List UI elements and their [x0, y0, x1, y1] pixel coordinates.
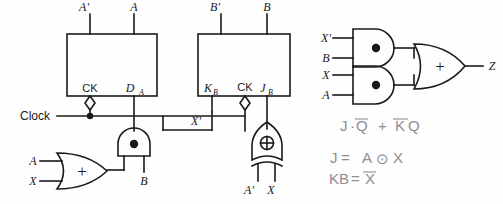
note1-dot: ·: [350, 117, 355, 134]
or-gate-z-symbol: +: [435, 57, 445, 76]
note2-j: J: [330, 149, 338, 166]
label-or-input-x: X: [28, 174, 37, 188]
and-gate-da-dot: [130, 140, 138, 148]
or-gate-ax-symbol: +: [77, 162, 87, 181]
label-kb: K: [203, 81, 213, 95]
note2-x: X: [393, 149, 403, 166]
label-ck-b: CK: [237, 81, 253, 93]
label-and-input-b: B: [140, 174, 148, 188]
label-a: A: [129, 0, 138, 14]
note2-xnor: ⊙: [376, 150, 389, 167]
and-gate-top-dot: [372, 44, 380, 52]
clock-junction-dot: [87, 113, 93, 119]
label-da-sub: A: [138, 88, 144, 97]
note2-eq: =: [341, 149, 350, 166]
note1-k: K: [395, 117, 405, 134]
note1-plus: +: [378, 117, 387, 134]
label-kb-input-xprime: X': [190, 114, 201, 128]
note2-a: A: [362, 149, 372, 166]
label-da: D: [125, 81, 135, 95]
note3-kb: KB: [329, 170, 349, 187]
label-out-and-bottom-x: X: [321, 68, 330, 82]
label-b: B: [263, 0, 271, 14]
label-clock: Clock: [20, 109, 51, 123]
label-xor-input-aprime: A': [243, 183, 254, 197]
note1-q2: Q: [408, 117, 420, 134]
note1-q: Q: [356, 117, 368, 134]
label-kb-sub: B: [213, 88, 218, 97]
label-output-z: Z: [489, 59, 496, 73]
label-xor-input-x: X: [266, 183, 275, 197]
label-jb-sub: B: [268, 88, 273, 97]
label-out-and-top-xprime: X': [320, 31, 331, 45]
note-line-1: J · Q + K Q: [340, 117, 420, 134]
flipflop-a-ck-marker: [85, 96, 95, 110]
note1-j: J: [340, 117, 348, 134]
label-a-prime: A': [78, 0, 89, 14]
and-gate-bottom-dot: [372, 81, 380, 89]
note-line-3: KB = X: [329, 170, 376, 187]
note-line-2: J = A ⊙ X: [330, 149, 403, 167]
note3-eq: =: [351, 170, 360, 187]
circuit-svg: A' A CK D A B' B K B CK J B X' Clock B A…: [0, 0, 503, 204]
label-ck-a: CK: [82, 82, 98, 94]
label-out-and-bottom-a: A: [321, 88, 330, 102]
flipflop-b-ck-marker: [240, 96, 250, 110]
xor-gate-jb-extra-arc: [252, 162, 282, 166]
label-or-input-a: A: [28, 154, 37, 168]
label-jb: J: [260, 81, 266, 95]
label-b-prime: B': [210, 0, 220, 14]
label-out-and-top-b: B: [322, 51, 330, 65]
flipflop-a-box: [67, 34, 157, 96]
circuit-diagram-canvas: A' A CK D A B' B K B CK J B X' Clock B A…: [0, 0, 503, 204]
